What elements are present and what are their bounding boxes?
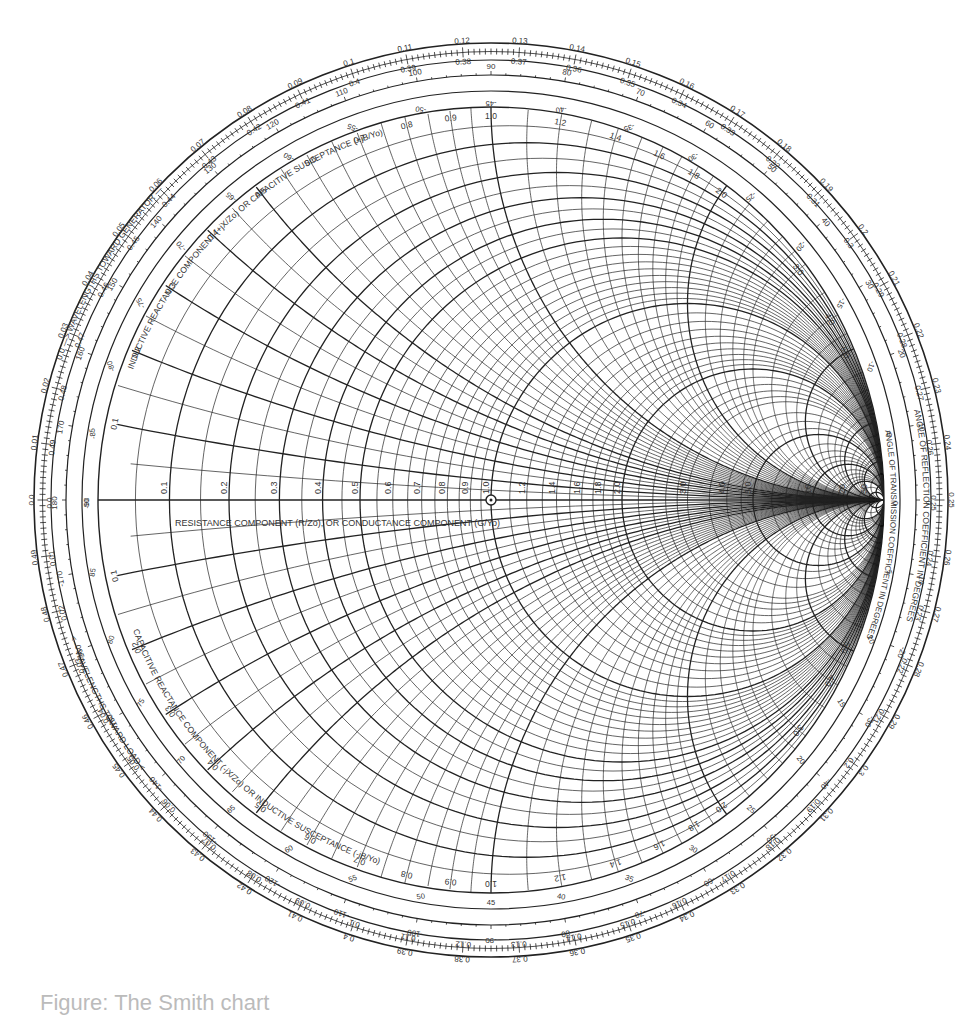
svg-text:0.49: 0.49 (47, 439, 58, 456)
svg-text:-15: -15 (835, 296, 848, 310)
svg-text:1.8: 1.8 (686, 166, 702, 181)
svg-text:0.3: 0.3 (842, 236, 856, 251)
figure-caption: Figure: The Smith chart (40, 990, 269, 1016)
svg-text:90: 90 (487, 62, 496, 71)
svg-text:0.01: 0.01 (29, 434, 40, 451)
svg-text:0.3: 0.3 (269, 481, 279, 494)
svg-text:0.38: 0.38 (454, 954, 471, 964)
svg-text:0.14: 0.14 (569, 42, 587, 54)
svg-text:1.2: 1.2 (554, 116, 568, 128)
svg-text:-60: -60 (702, 875, 717, 889)
svg-text:80: 80 (562, 67, 573, 78)
svg-text:0.5: 0.5 (350, 481, 360, 494)
svg-text:0.19: 0.19 (818, 176, 836, 194)
svg-text:0.9: 0.9 (460, 481, 470, 494)
svg-text:1.8: 1.8 (593, 481, 603, 494)
svg-text:0.17: 0.17 (728, 104, 746, 120)
svg-text:-90: -90 (82, 498, 91, 509)
svg-text:-80: -80 (560, 928, 573, 939)
svg-text:25: 25 (745, 803, 757, 815)
svg-text:0.19: 0.19 (804, 797, 822, 815)
svg-text:40: 40 (556, 891, 566, 901)
svg-text:0.43: 0.43 (188, 846, 206, 863)
svg-text:0.37: 0.37 (511, 57, 528, 67)
svg-text:2.0: 2.0 (714, 800, 730, 815)
svg-text:1.0: 1.0 (485, 879, 497, 889)
svg-text:0.01: 0.01 (47, 550, 58, 567)
svg-text:140: 140 (148, 214, 164, 230)
svg-text:0.27: 0.27 (930, 606, 943, 624)
svg-text:70: 70 (635, 87, 647, 99)
svg-text:180: 180 (50, 496, 59, 510)
svg-text:5.0: 5.0 (839, 345, 853, 360)
svg-text:0.15: 0.15 (624, 56, 642, 70)
svg-text:170: 170 (55, 419, 66, 434)
svg-text:ANGLE OF REFLECTION COEFFICIEN: ANGLE OF REFLECTION COEFFICIENT IN DEGRE… (904, 408, 931, 623)
svg-text:0.13: 0.13 (510, 939, 527, 949)
svg-text:0.39: 0.39 (396, 946, 414, 958)
svg-text:-60: -60 (282, 150, 296, 163)
svg-text:1.2: 1.2 (517, 481, 527, 494)
svg-text:0.23: 0.23 (930, 377, 943, 395)
svg-text:0.02: 0.02 (39, 376, 52, 394)
svg-text:0.3: 0.3 (856, 763, 870, 778)
svg-text:0.6: 0.6 (383, 481, 393, 494)
svg-text:100: 100 (408, 67, 423, 78)
svg-text:80: 80 (105, 634, 116, 645)
svg-text:5.0: 5.0 (743, 481, 753, 494)
svg-text:0.41: 0.41 (294, 95, 312, 110)
svg-text:0.33: 0.33 (719, 122, 737, 138)
svg-text:75: 75 (135, 697, 147, 709)
svg-text:45: 45 (487, 898, 495, 907)
svg-text:20: 20 (795, 754, 807, 766)
svg-text:20: 20 (837, 484, 847, 494)
svg-text:0.08: 0.08 (236, 103, 254, 119)
svg-text:0.9: 0.9 (444, 112, 457, 123)
svg-text:0.2: 0.2 (841, 756, 855, 771)
svg-text:0.2: 0.2 (856, 222, 870, 237)
svg-text:-110: -110 (332, 907, 350, 921)
svg-text:0.11: 0.11 (397, 42, 414, 54)
svg-text:1.4: 1.4 (608, 857, 623, 870)
svg-text:<— WAVELENGTHS TOWARD LOAD <—: <— WAVELENGTHS TOWARD LOAD <— (0, 0, 148, 772)
svg-text:0.29: 0.29 (886, 713, 902, 731)
svg-text:0.4: 0.4 (313, 481, 323, 494)
svg-text:50: 50 (859, 484, 869, 494)
svg-text:15: 15 (835, 697, 847, 709)
svg-text:1.0: 1.0 (481, 481, 491, 494)
svg-text:0.41: 0.41 (286, 909, 304, 924)
svg-text:4.0: 4.0 (717, 481, 727, 494)
svg-text:-30: -30 (686, 150, 700, 163)
svg-text:-50: -50 (415, 104, 427, 115)
svg-text:0.48: 0.48 (57, 384, 70, 402)
svg-text:0.25: 0.25 (947, 492, 956, 508)
svg-text:0.49: 0.49 (29, 549, 40, 566)
svg-text:3.0: 3.0 (678, 481, 688, 494)
svg-text:0.4: 0.4 (348, 76, 362, 88)
svg-text:0.1: 0.1 (347, 917, 361, 929)
svg-text:120: 120 (264, 117, 281, 132)
svg-text:2.0: 2.0 (612, 481, 622, 494)
svg-text:0.8: 0.8 (400, 119, 414, 131)
svg-text:0.21: 0.21 (886, 269, 902, 287)
svg-text:0.18: 0.18 (775, 137, 793, 154)
svg-text:0.48: 0.48 (39, 605, 52, 623)
svg-text:-85: -85 (87, 428, 98, 440)
svg-text:1.4: 1.4 (608, 130, 623, 143)
svg-text:0.28: 0.28 (895, 331, 909, 349)
svg-text:0.24: 0.24 (942, 434, 953, 451)
svg-text:INDUCTIVE REACTANCE COMPONENT: INDUCTIVE REACTANCE COMPONENT (+jX/Zo) O… (125, 127, 383, 371)
svg-text:0.46: 0.46 (80, 712, 96, 730)
svg-text:0.1: 0.1 (108, 569, 120, 583)
svg-text:1.0: 1.0 (485, 111, 497, 121)
svg-text:-170: -170 (55, 570, 67, 588)
svg-text:0.42: 0.42 (245, 122, 263, 138)
svg-text:0.16: 0.16 (678, 76, 696, 91)
svg-text:-55: -55 (346, 122, 359, 134)
svg-text:0.8: 0.8 (400, 869, 414, 881)
svg-text:85: 85 (87, 567, 97, 577)
svg-text:0.44: 0.44 (147, 806, 165, 824)
svg-text:0.27: 0.27 (913, 384, 926, 402)
